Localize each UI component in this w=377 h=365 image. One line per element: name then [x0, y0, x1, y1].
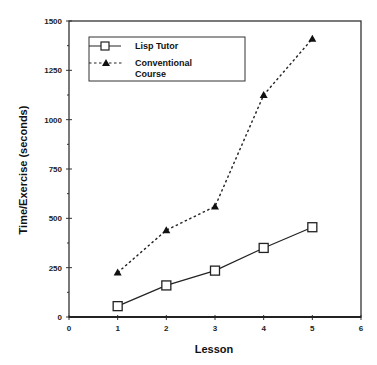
- x-tick-label: 2: [164, 324, 169, 333]
- filled-triangle-marker-icon: [162, 226, 170, 233]
- legend-label-conventional-line1: Conventional: [135, 58, 192, 68]
- filled-triangle-marker-icon: [260, 91, 268, 98]
- x-axis: 0123456: [67, 315, 364, 333]
- x-tick-label: 0: [67, 324, 72, 333]
- filled-triangle-marker-icon: [211, 202, 219, 209]
- legend: Lisp Tutor Conventional Course: [89, 37, 245, 81]
- x-tick-label: 3: [213, 324, 218, 333]
- open-square-marker-icon: [113, 302, 122, 311]
- open-square-marker-icon: [162, 281, 171, 290]
- legend-label-lisp-tutor: Lisp Tutor: [135, 41, 179, 51]
- x-axis-title: Lesson: [195, 343, 234, 355]
- open-square-marker-icon: [308, 223, 317, 232]
- y-tick-label: 1250: [44, 66, 62, 75]
- y-tick-label: 500: [49, 214, 63, 223]
- y-tick-label: 750: [49, 165, 63, 174]
- open-square-marker-icon: [101, 42, 109, 50]
- y-tick-label: 1500: [44, 17, 62, 26]
- open-square-marker-icon: [259, 243, 268, 252]
- x-tick-label: 1: [115, 324, 120, 333]
- filled-triangle-marker-icon: [308, 35, 316, 42]
- y-axis: 0250500750100012501500: [44, 17, 72, 322]
- legend-label-conventional-line2: Course: [135, 69, 166, 79]
- filled-triangle-marker-icon: [114, 269, 122, 276]
- x-tick-label: 6: [359, 324, 364, 333]
- y-tick-label: 0: [58, 313, 63, 322]
- open-square-marker-icon: [211, 266, 220, 275]
- y-axis-title: Time/Exercise (seconds): [17, 105, 29, 234]
- x-tick-label: 4: [261, 324, 266, 333]
- y-tick-label: 1000: [44, 116, 62, 125]
- y-tick-label: 250: [49, 264, 63, 273]
- x-tick-label: 5: [310, 324, 315, 333]
- line-chart: 0250500750100012501500 0123456 Time/Exer…: [0, 0, 377, 365]
